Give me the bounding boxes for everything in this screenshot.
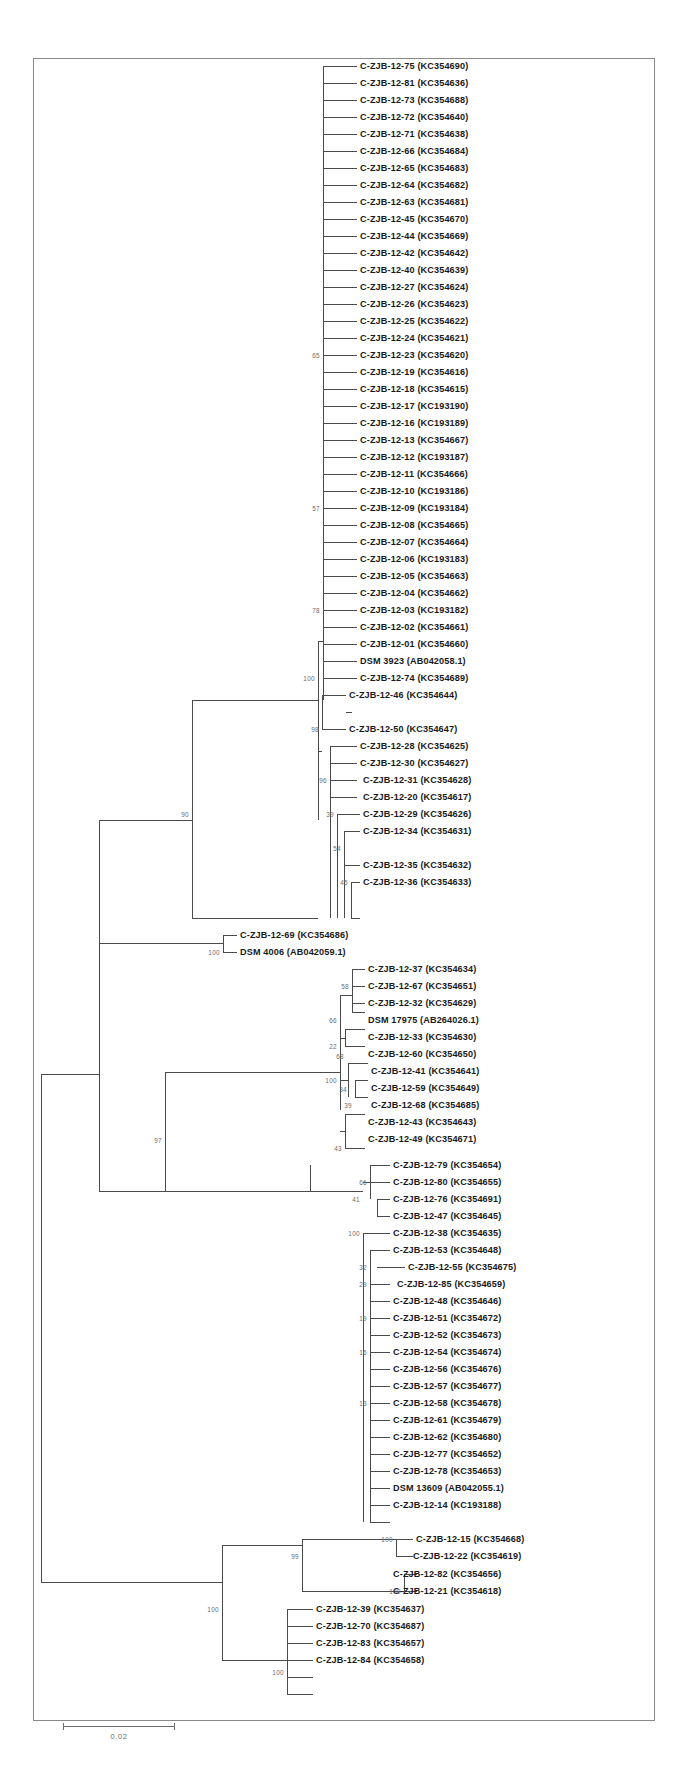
taxon-label: C-ZJB-12-07 (KC354664) [360,537,468,547]
taxon-label: C-ZJB-12-22 (KC354619) [413,1551,521,1561]
taxon-label: C-ZJB-12-13 (KC354667) [360,435,468,445]
bootstrap-value: 100 [348,1230,360,1237]
bootstrap-value: 39 [344,1102,352,1109]
taxon-label: C-ZJB-12-68 (KC354685) [371,1100,479,1110]
bootstrap-value: 65 [312,352,320,359]
taxon-label: DSM 3923 (AB042058.1) [360,656,466,666]
bootstrap-value: 16 [359,1349,367,1356]
taxon-label: C-ZJB-12-51 (KC354672) [393,1313,501,1323]
taxon-label: C-ZJB-12-66 (KC354684) [360,146,468,156]
taxon-label: C-ZJB-12-15 (KC354668) [416,1534,524,1544]
taxon-label: C-ZJB-12-10 (KC193186) [360,486,468,496]
taxon-label: C-ZJB-12-41 (KC354641) [371,1066,479,1076]
bootstrap-value: 96 [319,777,327,784]
taxon-label: C-ZJB-12-11 (KC354666) [360,469,468,479]
taxon-label: C-ZJB-12-27 (KC354624) [360,282,468,292]
taxon-label: C-ZJB-12-02 (KC354661) [360,622,468,632]
taxon-label: C-ZJB-12-46 (KC354644) [349,690,457,700]
taxon-label: C-ZJB-12-50 (KC354647) [349,724,457,734]
taxon-label: C-ZJB-12-56 (KC354676) [393,1364,501,1374]
taxon-label: C-ZJB-12-60 (KC354650) [368,1049,476,1059]
bootstrap-value: 66 [329,1017,337,1024]
bootstrap-value: 100 [207,1606,219,1613]
taxon-label: C-ZJB-12-37 (KC354634) [368,964,476,974]
bootstrap-value: 58 [341,983,349,990]
taxon-label: C-ZJB-12-72 (KC354640) [360,112,468,122]
taxon-label: DSM 4006 (AB042059.1) [240,947,346,957]
taxon-label: C-ZJB-12-57 (KC354677) [393,1381,501,1391]
taxon-label: C-ZJB-12-62 (KC354680) [393,1432,501,1442]
taxon-label: C-ZJB-12-01 (KC354660) [360,639,468,649]
taxon-label: C-ZJB-12-74 (KC354689) [360,673,468,683]
taxon-label: C-ZJB-12-03 (KC193182) [360,605,468,615]
taxon-label: C-ZJB-12-58 (KC354678) [393,1398,501,1408]
scale-bar-label: 0.02 [63,1732,175,1741]
taxon-label: C-ZJB-12-81 (KC354636) [360,78,468,88]
taxon-label: C-ZJB-12-06 (KC193183) [360,554,468,564]
taxon-label: C-ZJB-12-47 (KC354645) [393,1211,501,1221]
taxon-label: C-ZJB-12-77 (KC354652) [393,1449,501,1459]
taxon-label: C-ZJB-12-79 (KC354654) [393,1160,501,1170]
taxon-label: C-ZJB-12-36 (KC354633) [363,877,471,887]
bootstrap-value: 98 [311,726,319,733]
taxon-label: C-ZJB-12-43 (KC354643) [368,1117,476,1127]
phylogenetic-tree-figure: C-ZJB-12-75 (KC354690) C-ZJB-12-81 (KC35… [0,0,679,1778]
bootstrap-value: 100 [325,1077,337,1084]
bootstrap-value: 66 [359,1179,367,1186]
taxon-label: C-ZJB-12-04 (KC354662) [360,588,468,598]
bootstrap-value: 45 [340,879,348,886]
taxon-label: C-ZJB-12-84 (KC354658) [316,1655,424,1665]
taxon-label: C-ZJB-12-73 (KC354688) [360,95,468,105]
taxon-label: C-ZJB-12-26 (KC354623) [360,299,468,309]
bootstrap-value: 41 [352,1196,360,1203]
bootstrap-value: 39 [326,811,334,818]
taxon-label: C-ZJB-12-49 (KC354671) [368,1134,476,1144]
taxon-label: C-ZJB-12-82 (KC354656) [393,1569,501,1579]
taxon-label: C-ZJB-12-28 (KC354625) [360,741,468,751]
taxon-label: DSM 13609 (AB042055.1) [393,1483,504,1493]
taxon-label: C-ZJB-12-61 (KC354679) [393,1415,501,1425]
bootstrap-value: 13 [359,1400,367,1407]
taxon-label: C-ZJB-12-17 (KC193190) [360,401,468,411]
taxon-label: C-ZJB-12-64 (KC354682) [360,180,468,190]
taxon-label: C-ZJB-12-78 (KC354653) [393,1466,501,1476]
taxon-label: C-ZJB-12-35 (KC354632) [363,860,471,870]
bootstrap-value: 100 [381,1536,393,1543]
taxon-label: C-ZJB-12-83 (KC354657) [316,1638,424,1648]
bootstrap-value: 78 [312,607,320,614]
bootstrap-value: 100 [303,675,315,682]
taxon-label: C-ZJB-12-63 (KC354681) [360,197,468,207]
taxon-label: C-ZJB-12-67 (KC354651) [368,981,476,991]
bootstrap-value: 99 [291,1553,299,1560]
bootstrap-value: 54 [333,845,341,852]
taxon-label: C-ZJB-12-33 (KC354630) [368,1032,476,1042]
bootstrap-value: 19 [359,1315,367,1322]
taxon-label: C-ZJB-12-71 (KC354638) [360,129,468,139]
bootstrap-value: 34 [339,1086,347,1093]
taxon-label: C-ZJB-12-65 (KC354683) [360,163,468,173]
taxon-label: C-ZJB-12-16 (KC193189) [360,418,468,428]
scale-bar-line [63,1726,175,1727]
taxon-label: C-ZJB-12-69 (KC354686) [240,930,348,940]
bootstrap-value: 100 [389,1588,401,1595]
taxon-label: C-ZJB-12-70 (KC354687) [316,1621,424,1631]
bootstrap-value: 100 [272,1669,284,1676]
taxon-label: C-ZJB-12-54 (KC354674) [393,1347,501,1357]
bootstrap-value: 100 [208,949,220,956]
taxon-label: C-ZJB-12-32 (KC354629) [368,998,476,1008]
taxon-label: C-ZJB-12-80 (KC354655) [393,1177,501,1187]
taxon-label: C-ZJB-12-59 (KC354649) [371,1083,479,1093]
taxon-label: C-ZJB-12-31 (KC354628) [363,775,471,785]
taxon-label: C-ZJB-12-52 (KC354673) [393,1330,501,1340]
scale-bar: 0.02 [63,1722,223,1748]
taxon-label: C-ZJB-12-39 (KC354637) [316,1604,424,1614]
taxon-label: C-ZJB-12-20 (KC354617) [363,792,471,802]
bootstrap-value: 90 [181,811,189,818]
taxon-label: C-ZJB-12-34 (KC354631) [363,826,471,836]
taxon-label: C-ZJB-12-05 (KC354663) [360,571,468,581]
taxon-label: C-ZJB-12-44 (KC354669) [360,231,468,241]
taxon-label: C-ZJB-12-18 (KC354615) [360,384,468,394]
taxon-label: C-ZJB-12-48 (KC354646) [393,1296,501,1306]
taxon-label: C-ZJB-12-45 (KC354670) [360,214,468,224]
bootstrap-value: 97 [154,1137,162,1144]
